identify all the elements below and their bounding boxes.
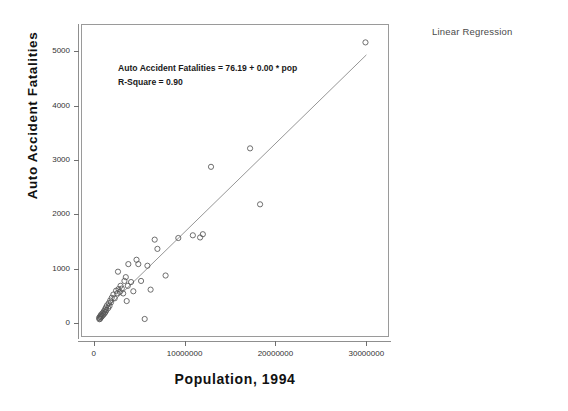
scatter-point [124, 298, 129, 303]
y-tick-mark [74, 214, 79, 215]
scatter-point [208, 164, 213, 169]
regression-fit-line [98, 55, 366, 316]
scatter-point [126, 262, 131, 267]
x-axis-line [78, 341, 391, 342]
scatter-point [190, 233, 195, 238]
x-axis-title: Population, 1994 [81, 371, 389, 387]
x-tick-mark [185, 341, 186, 346]
scatter-point [200, 232, 205, 237]
x-tick-label: 0 [91, 349, 95, 358]
y-tick-label: 2000 [26, 209, 70, 218]
scatter-point [363, 40, 368, 45]
y-axis-line [78, 24, 79, 339]
scatter-point [148, 287, 153, 292]
scatter-point [115, 269, 120, 274]
y-tick-mark [74, 323, 79, 324]
y-tick-mark [74, 106, 79, 107]
regression-equation-annotation: Auto Accident Fatalities = 76.19 + 0.00 … [118, 61, 297, 89]
x-tick-mark [366, 341, 367, 346]
scatter-point [145, 263, 150, 268]
regression-line [98, 55, 366, 316]
scatter-point [136, 262, 141, 267]
y-tick-mark [74, 269, 79, 270]
scatter-point [247, 146, 252, 151]
scatter-point [155, 246, 160, 251]
x-tick-mark [275, 341, 276, 346]
scatter-point [142, 316, 147, 321]
y-tick-mark [74, 160, 79, 161]
y-tick-label: 0 [26, 318, 70, 327]
x-tick-mark [94, 341, 95, 346]
y-tick-label: 4000 [26, 101, 70, 110]
scatter-point [163, 273, 168, 278]
plot-area: Auto Accident Fatalities = 76.19 + 0.00 … [81, 24, 389, 337]
chart-corner-caption: Linear Regression [432, 26, 513, 37]
y-tick-label: 3000 [26, 155, 70, 164]
x-tick-label: 20000000 [258, 349, 294, 358]
scatter-point [257, 202, 262, 207]
y-tick-label: 5000 [26, 46, 70, 55]
scatter-point [198, 235, 203, 240]
regression-equation-text: Auto Accident Fatalities = 76.19 + 0.00 … [118, 61, 297, 75]
r-square-text: R-Square = 0.90 [118, 75, 297, 89]
y-tick-mark [74, 51, 79, 52]
scatter-point [131, 289, 136, 294]
x-tick-label: 30000000 [348, 349, 384, 358]
x-tick-label: 10000000 [167, 349, 203, 358]
scatter-point [152, 237, 157, 242]
figure-canvas: Linear Regression Auto Accident Fataliti… [0, 0, 568, 411]
scatter-point [138, 278, 143, 283]
y-tick-label: 1000 [26, 264, 70, 273]
